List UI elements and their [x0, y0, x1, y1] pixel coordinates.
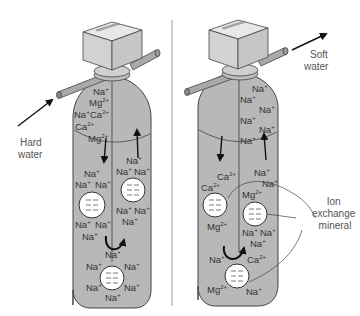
- hard-water-tank: Na+Mg2+Na+Ca2+Ca2+Mg2+Na+Na+Na+Na+Na+Na+…: [57, 22, 161, 308]
- ion-exchange-mineral-label: Ion exchange mineral: [312, 196, 358, 231]
- ion-exchange-bead: [79, 192, 105, 218]
- soft-water-arrow: [292, 34, 326, 50]
- ion-exchange-bead: [225, 264, 249, 288]
- ion-exchange-bead: [121, 178, 145, 202]
- hard-water-arrow: [18, 100, 52, 126]
- water-softener-diagram: Na+Mg2+Na+Ca2+Ca2+Mg2+Na+Na+Na+Na+Na+Na+…: [0, 0, 360, 316]
- hard-water-label: Hard water: [17, 137, 44, 160]
- soft-water-tank: Na+Na+Na+Na+Na+Na+Ca2+Ca2+Mg2+Na+Na+Mg2+…: [185, 20, 317, 306]
- ion-exchange-bead: [100, 266, 124, 290]
- ion-exchange-bead: [203, 193, 227, 217]
- ion-exchange-bead: [243, 202, 267, 226]
- flow-arrow-up: [137, 130, 138, 158]
- soft-water-label: Soft water: [303, 49, 331, 72]
